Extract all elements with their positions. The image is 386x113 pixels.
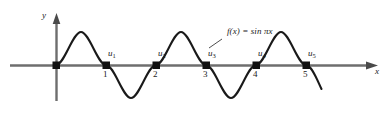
node-label-u5-base: u xyxy=(308,48,313,58)
node-label-u4: u4 xyxy=(258,49,266,58)
marker-u2 xyxy=(153,62,161,70)
function-label-text: f(x) = sin πx xyxy=(227,26,273,36)
x-tick-3: 3 xyxy=(203,70,208,79)
node-label-u3: u3 xyxy=(208,49,216,58)
node-label-u3-base: u xyxy=(208,48,213,58)
node-label-u2-base: u xyxy=(158,48,163,58)
node-label-u2: u2 xyxy=(158,49,166,58)
y-axis xyxy=(53,13,61,101)
node-label-u1: u1 xyxy=(108,49,116,58)
node-label-u1-base: u xyxy=(108,48,113,58)
marker-u4 xyxy=(253,62,261,70)
node-label-u1-sub: 1 xyxy=(113,52,116,59)
marker-u3 xyxy=(203,62,211,70)
function-label: f(x) = sin πx xyxy=(227,27,273,36)
y-axis-label: y xyxy=(42,11,46,20)
marker-u5 xyxy=(303,62,311,70)
x-axis xyxy=(10,62,378,70)
marker-u1 xyxy=(103,62,111,70)
x-tick-4: 4 xyxy=(253,70,258,79)
marker-origin xyxy=(53,62,61,70)
node-label-u4-base: u xyxy=(258,48,263,58)
x-tick-1: 1 xyxy=(103,70,108,79)
node-label-u5-sub: 5 xyxy=(313,52,316,59)
node-label-u3-sub: 3 xyxy=(213,52,216,59)
plot-canvas xyxy=(0,0,386,113)
x-axis-label: x xyxy=(375,67,379,76)
annotation-leader-line xyxy=(209,39,222,48)
node-label-u5: u5 xyxy=(308,49,316,58)
x-tick-5: 5 xyxy=(303,70,308,79)
node-label-u2-sub: 2 xyxy=(163,52,166,59)
x-tick-2: 2 xyxy=(153,70,158,79)
node-label-u4-sub: 4 xyxy=(263,52,266,59)
sine-curve-figure: y x f(x) = sin πx u1 u2 u3 u4 u5 1 2 3 4… xyxy=(0,0,386,113)
